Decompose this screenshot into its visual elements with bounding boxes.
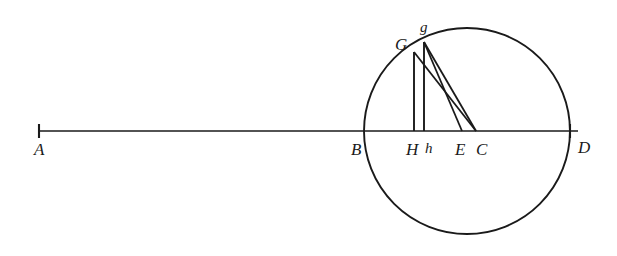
point-label-H: H — [406, 141, 418, 158]
point-label-g: g — [420, 20, 428, 35]
diagram-strokes — [39, 28, 578, 234]
point-label-C: C — [476, 141, 487, 158]
point-label-D: D — [578, 139, 590, 156]
point-label-A: A — [34, 141, 44, 158]
point-label-G: G — [395, 36, 407, 53]
point-label-E: E — [455, 141, 465, 158]
segment-g-E — [424, 42, 462, 131]
point-label-B: B — [351, 141, 361, 158]
point-label-h: h — [425, 141, 433, 156]
segment-g-C — [424, 42, 476, 131]
geometry-figure: ABGgHhECD — [0, 0, 617, 256]
figure-canvas — [0, 0, 617, 256]
